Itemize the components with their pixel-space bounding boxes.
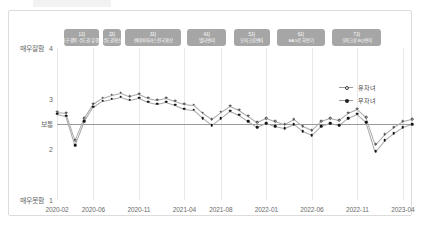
legend-item-유자녀[interactable]: 유자녀 [339, 83, 375, 92]
data-point [411, 123, 414, 126]
y-tick-value: 1 [47, 197, 53, 204]
data-point [392, 132, 395, 135]
series-line-segment [66, 116, 76, 146]
y-tick-4: 매우잘함4 [20, 43, 53, 53]
data-point [129, 95, 132, 98]
data-point [256, 126, 259, 129]
wave-band-name: 변이바이러스 전국확산 [134, 38, 173, 43]
data-point [383, 139, 386, 142]
wave-band-6: 6차BA.5로 하반기 [277, 29, 324, 46]
data-point [283, 127, 286, 130]
chart-screenshot: 1차대구·경북·수도권 유행기2차수도권확산3차변이바이러스 전국확산4차델타변… [0, 0, 422, 230]
x-tick-2022-01: 2022-01 [255, 206, 278, 213]
data-point [119, 91, 122, 94]
y-tick-2: 2 [44, 146, 53, 153]
data-point [356, 113, 359, 116]
data-point [201, 112, 204, 115]
data-point [83, 120, 86, 123]
data-point [147, 96, 150, 99]
data-point [301, 125, 304, 128]
data-point [356, 108, 359, 111]
data-point [147, 100, 150, 103]
data-point [256, 121, 259, 124]
data-point [192, 103, 195, 106]
x-tick-2020-02: 2020-02 [45, 206, 68, 213]
reference-line [57, 124, 412, 125]
wave-band-1: 1차대구·경북·수도권 유행기 [64, 29, 99, 46]
data-point [320, 120, 323, 123]
data-point [292, 118, 295, 121]
data-point [320, 125, 323, 128]
wave-band-name: BA.5로 하반기 [288, 38, 313, 43]
y-tick-label-kr: 매우못함 [20, 197, 44, 204]
x-tick-2021-04: 2021-04 [173, 206, 196, 213]
wave-band-name: 오미크론 BQ변이 [342, 38, 372, 43]
data-point [183, 102, 186, 105]
legend: 유자녀무자녀 [339, 83, 375, 105]
data-point [274, 120, 277, 123]
data-point [138, 96, 141, 99]
data-point [347, 117, 350, 120]
wave-band-row: 1차대구·경북·수도권 유행기2차수도권확산3차변이바이러스 전국확산4차델타변… [57, 29, 412, 46]
data-point [338, 119, 341, 122]
data-point [265, 122, 268, 125]
wave-band-4: 4차델타변이 [187, 29, 226, 46]
data-point [92, 105, 95, 108]
wave-band-name: 델타변이 [199, 38, 214, 43]
data-point [311, 134, 314, 137]
data-point [192, 109, 195, 112]
data-point [247, 120, 250, 123]
y-tick-value: 4 [47, 45, 53, 52]
data-point [156, 98, 159, 101]
data-point [329, 122, 332, 125]
data-point [174, 99, 177, 102]
x-tick-2020-11: 2020-11 [128, 206, 151, 213]
data-point [402, 126, 405, 129]
data-point [347, 112, 350, 115]
data-point [283, 123, 286, 126]
data-point [119, 95, 122, 98]
x-tick-2023-04: 2023-04 [391, 206, 414, 213]
wave-band-name: 대구·경북·수도권 유행기 [64, 38, 99, 43]
data-point [229, 104, 232, 107]
data-point [165, 100, 168, 103]
data-point [156, 102, 159, 105]
y-tick-label-kr: 매우잘함 [20, 45, 44, 52]
legend-marker-icon [339, 84, 353, 91]
data-point [392, 126, 395, 129]
data-point [110, 97, 113, 100]
data-point [247, 115, 250, 118]
data-point [165, 96, 168, 99]
reference-line-label: 보통 [41, 119, 53, 129]
data-point [174, 103, 177, 106]
data-point [265, 117, 268, 120]
data-point [110, 93, 113, 96]
x-tick-2021-08: 2021-08 [209, 206, 232, 213]
data-point [374, 150, 377, 153]
chart-card: 1차대구·경북·수도권 유행기2차수도권확산3차변이바이러스 전국확산4차델타변… [8, 10, 412, 216]
data-point [65, 115, 68, 118]
data-point [56, 113, 59, 116]
y-tick-value: 2 [47, 146, 53, 153]
legend-label: 유자녀 [358, 83, 375, 92]
legend-marker-icon [339, 97, 353, 104]
legend-item-무자녀[interactable]: 무자녀 [339, 96, 375, 105]
cropped-toolbar-strip [33, 0, 111, 7]
data-point [338, 124, 341, 127]
data-point [402, 120, 405, 123]
data-point [383, 133, 386, 136]
data-point [229, 110, 232, 113]
data-point [365, 116, 368, 119]
x-tick-2022-06: 2022-06 [300, 206, 323, 213]
data-point [374, 143, 377, 146]
data-point [311, 129, 314, 132]
data-point [220, 117, 223, 120]
y-tick-1: 매우못함1 [20, 195, 53, 205]
data-point [292, 123, 295, 126]
series-line-segment [366, 122, 376, 152]
wave-band-3: 3차변이바이러스 전국확산 [125, 29, 181, 46]
data-point [129, 98, 132, 101]
data-point [329, 117, 332, 120]
data-point [201, 117, 204, 120]
x-tick-2022-11: 2022-11 [346, 206, 369, 213]
